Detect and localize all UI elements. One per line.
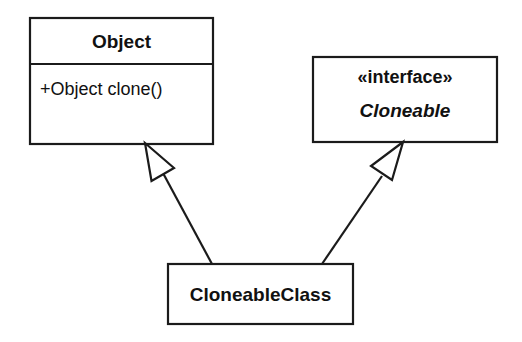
class-name-object: Object bbox=[30, 32, 213, 51]
realization-line-right bbox=[322, 176, 382, 264]
operation-object-clone: +Object clone() bbox=[40, 80, 210, 98]
generalization-line-left bbox=[164, 174, 213, 264]
generalization-arrowhead-left bbox=[145, 143, 174, 181]
generalization-cloneableclass-to-object[interactable] bbox=[145, 143, 212, 264]
class-name-cloneable: Cloneable bbox=[313, 101, 497, 120]
class-name-cloneable-class: CloneableClass bbox=[168, 285, 353, 304]
realization-arrowhead-right bbox=[371, 142, 403, 180]
realization-cloneableclass-to-cloneable[interactable] bbox=[322, 142, 403, 264]
uml-class-diagram: Object +Object clone() «interface» Clone… bbox=[0, 0, 522, 342]
stereotype-interface: «interface» bbox=[313, 68, 497, 86]
